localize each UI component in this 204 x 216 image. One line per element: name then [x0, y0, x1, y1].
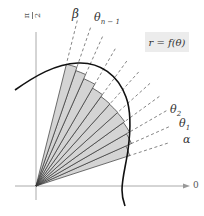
angle-ray-dashed: [86, 36, 103, 74]
theta-n-minus-1-label: θn − 1: [94, 12, 120, 26]
angle-ray-dashed: [128, 143, 168, 156]
theta-1-label: θ1: [179, 118, 190, 132]
theta-symbol: θ: [170, 103, 177, 116]
angle-ray-dashed: [67, 20, 77, 61]
alpha-label: α: [183, 134, 190, 145]
curve-equation-label: r = f(θ): [145, 32, 189, 52]
theta-symbol: θ: [94, 11, 101, 24]
vertical-axis-label: π 2: [23, 12, 42, 19]
pi-numerator: π: [23, 13, 31, 18]
subscript: 1: [186, 124, 190, 132]
polar-axis-arrowhead-icon: [183, 184, 190, 189]
sector-wedges: [36, 64, 132, 186]
angle-ray-dashed: [131, 127, 169, 144]
angle-ray-dashed: [119, 83, 150, 111]
subscript: n − 1: [101, 18, 120, 26]
theta-symbol: θ: [179, 117, 186, 130]
angle-ray-dashed: [111, 72, 139, 103]
angle-ray-dashed: [77, 27, 91, 67]
polar-axis-label: 0: [193, 181, 199, 190]
beta-label: β: [72, 8, 79, 20]
two-denominator: 2: [34, 13, 42, 18]
